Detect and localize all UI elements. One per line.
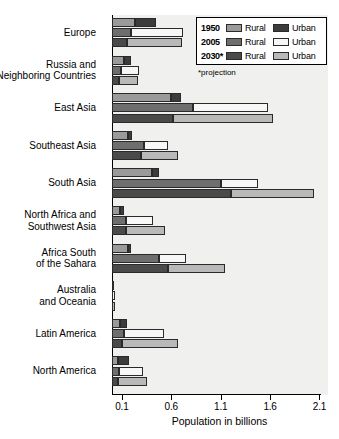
bar-segment [112,291,114,300]
category-label-line: Australia [0,284,96,296]
category-label: East Asia [0,102,96,114]
bar-segment [112,76,119,85]
bar-segment [120,206,124,215]
category-label-line: North Africa and [0,209,96,221]
x-tick [270,394,271,400]
population-bar-chart: 0.10.61.11.62.1 Population in billions E… [0,0,339,439]
legend-year-label: 1950 [201,23,226,33]
category-label: South Asia [0,177,96,189]
bar-segment [112,114,173,123]
legend-label-urban: Urban [292,23,320,33]
bar-segment [128,131,132,140]
bar-segment [171,93,181,102]
bar-segment [193,103,268,112]
legend-year-label: 2005 [201,37,226,47]
x-tick [319,394,320,400]
bar-segment [112,103,193,112]
category-label-line: of the Sahara [0,258,96,270]
bar-segment [112,216,126,225]
category-label-line: East Asia [0,102,96,114]
bar-segment [112,339,122,348]
category-label-line: Southeast Asia [0,140,96,152]
bar-segment [221,179,259,188]
bar-segment [126,216,153,225]
bar-segment [112,141,144,150]
bar-segment [112,179,221,188]
bar-segment [112,28,131,37]
legend-swatch-rural [226,52,242,60]
category-label-line: Africa South [0,247,96,259]
bar-segment [112,319,120,328]
legend-row: 2005RuralUrban [201,35,322,48]
bar-segment [112,281,114,290]
bar-segment [168,264,224,273]
projection-footnote: *projection [198,68,236,77]
x-tick-label: 1.6 [250,401,290,412]
category-label-line: Latin America [0,328,96,340]
bar-segment [144,141,169,150]
category-label-line: Russia and [0,59,96,71]
bar-segment [112,18,135,27]
bar-segment [112,189,231,198]
bar-segment [112,168,152,177]
bar-segment [121,66,139,75]
bar-segment [124,329,165,338]
category-label: Europe [0,27,96,39]
bar-segment [119,367,143,376]
legend-year-label: 2030* [201,51,226,61]
category-label: Southeast Asia [0,140,96,152]
bar-segment [112,56,124,65]
category-label: Latin America [0,328,96,340]
bar-segment [131,28,183,37]
bar-segment [112,38,127,47]
bar-segment [120,319,127,328]
legend-row: 1950RuralUrban [201,21,322,34]
legend-swatch-urban [273,38,289,46]
x-tick-label: 0.1 [102,401,142,412]
legend-label-rural: Rural [245,23,273,33]
category-label: Australiaand Oceania [0,284,96,307]
x-tick [171,394,172,400]
bar-segment [112,302,115,311]
category-label: Africa Southof the Sahara [0,247,96,270]
legend: 1950RuralUrban2005RuralUrban2030*RuralUr… [196,17,327,65]
category-label-line: North America [0,365,96,377]
category-label-line: and Oceania [0,296,96,308]
bar-segment [118,356,129,365]
bar-segment [152,168,160,177]
bar-segment [118,377,147,386]
bar-segment [112,93,171,102]
bar-segment [127,38,182,47]
category-label: Russia andNeighboring Countries [0,59,96,82]
legend-swatch-urban [273,52,289,60]
bar-segment [124,56,131,65]
bar-segment [112,151,141,160]
bar-segment [112,264,168,273]
category-label-line: Neighboring Countries [0,70,96,82]
legend-row: 2030*RuralUrban [201,49,322,62]
legend-label-urban: Urban [292,51,320,61]
bar-segment [173,114,273,123]
legend-label-urban: Urban [292,37,320,47]
bar-segment [112,244,128,253]
x-tick-label: 0.6 [151,401,191,412]
x-axis-title: Population in billions [112,415,327,427]
category-label: North Africa andSouthwest Asia [0,209,96,232]
category-label-line: Europe [0,27,96,39]
bar-segment [112,206,120,215]
bar-segment [112,66,121,75]
legend-swatch-rural [226,38,242,46]
bar-segment [135,18,157,27]
legend-label-rural: Rural [245,37,273,47]
bar-segment [112,329,124,338]
category-label-line: South Asia [0,177,96,189]
bar-segment [141,151,179,160]
bar-segment [112,131,128,140]
bar-segment [126,226,166,235]
category-label-line: Southwest Asia [0,221,96,233]
x-tick-label: 2.1 [299,401,339,412]
x-tick-label: 1.1 [201,401,241,412]
bar-segment [112,254,159,263]
bar-segment [122,339,178,348]
legend-label-rural: Rural [245,51,273,61]
